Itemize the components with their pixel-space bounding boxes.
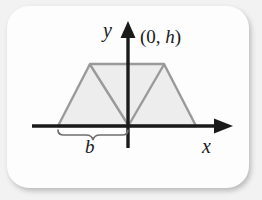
x-axis-label: x [202,136,211,156]
base-width-label: b [85,137,95,156]
apex-point-height-var: h [165,26,175,47]
apex-point-open-paren: (0, [140,26,165,47]
geometry-diagram [0,0,262,200]
apex-point-label: (0, h) [140,27,181,46]
figure-container: y x (0, h) b [0,0,262,200]
y-axis-label: y [103,20,112,40]
x-axis-arrowhead-icon [214,119,233,134]
y-axis-arrowhead-icon [121,21,136,38]
apex-point-close-paren: ) [175,26,181,47]
